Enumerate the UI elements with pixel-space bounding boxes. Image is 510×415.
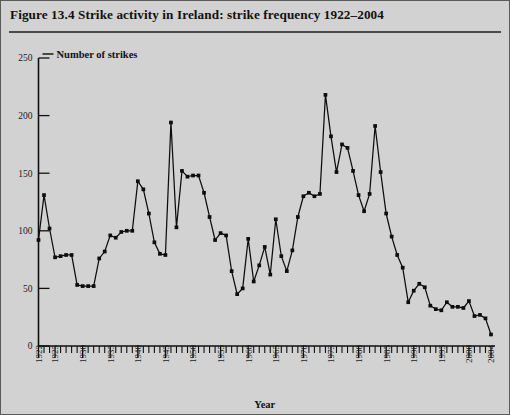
data-point-marker [59,254,63,258]
chart-plot-area: 050100150200250 192219251930193519401945… [1,35,510,415]
x-axis-tick-label: 1925 [50,345,60,364]
data-point-marker [489,333,493,337]
data-point-marker [108,234,112,238]
series-line-number-of-strikes [39,95,492,335]
data-point-marker [451,305,455,309]
y-axis-tick-label: 50 [23,284,33,294]
data-point-marker [473,314,477,318]
data-point-marker [346,146,350,150]
data-point-marker [75,283,79,287]
figure-title-bar: Figure 13.4 Strike activity in Ireland: … [1,1,509,31]
data-point-marker [164,253,168,257]
data-point-marker [136,179,140,183]
y-axis-tick-label: 0 [28,341,33,351]
data-point-marker [191,174,195,178]
data-point-marker [390,235,394,239]
data-point-marker [373,124,377,128]
data-point-marker [484,317,488,321]
data-point-marker [64,253,68,257]
data-point-marker [478,313,482,317]
data-point-marker [379,170,383,174]
y-axis-tick-label: 200 [18,111,33,121]
x-axis-tick-label: 1945 [161,345,171,364]
data-point-marker [368,192,372,196]
data-point-marker [351,169,355,173]
data-point-marker [395,253,399,257]
data-point-marker [456,305,460,309]
figure-caption: Figure 13.4 Strike activity in Ireland: … [10,7,384,23]
x-axis-tick-label: 1970 [299,345,309,364]
data-point-marker [268,273,272,277]
data-point-marker [439,308,443,312]
data-point-marker [462,306,466,310]
data-point-marker [202,191,206,195]
x-axis-tick-label: 2000 [464,345,474,364]
x-axis-tick-label: 1950 [188,345,198,364]
data-point-marker [103,250,107,254]
data-point-marker [434,307,438,311]
data-point-marker [401,266,405,270]
data-point-marker [302,194,306,198]
data-point-marker [324,93,328,97]
data-point-marker [230,269,234,273]
x-axis-tick-label: 1935 [106,345,116,364]
data-point-marker [290,249,294,253]
data-point-marker [224,234,228,238]
data-point-marker [246,237,250,241]
x-axis-tick-label: 1960 [244,345,254,364]
y-axis-tick-label: 250 [18,53,33,63]
y-axis-tick-label: 100 [18,226,33,236]
data-point-marker [384,212,388,216]
data-point-marker [423,285,427,289]
data-point-marker [158,252,162,256]
y-axis-tick-label: 150 [18,169,33,179]
data-point-marker [428,304,432,308]
x-axis: 1922192519301935194019451950195519601965… [34,345,497,364]
data-point-marker [406,300,410,304]
data-point-marker [335,170,339,174]
x-axis-tick-label: 1930 [78,345,88,364]
data-point-marker [412,289,416,293]
data-point-marker [197,174,201,178]
x-axis-tick-label: 1940 [133,345,143,364]
data-point-marker [153,240,157,244]
series-legend-label: Number of strikes [57,49,138,60]
x-axis-tick-label: 1922 [34,345,44,363]
data-point-marker [263,245,267,249]
data-point-marker [70,253,74,257]
x-axis-tick-label: 1965 [271,345,281,364]
data-point-marker [313,194,317,198]
data-point-marker [285,269,289,273]
x-axis-tick-label: 1980 [354,345,364,364]
data-point-marker [362,209,366,213]
data-point-marker [318,192,322,196]
title-divider [9,31,501,33]
data-point-marker [119,230,123,234]
x-axis-tick-label: 2004 [486,345,496,364]
data-point-marker [235,292,239,296]
x-axis-tick-label: 1995 [437,345,447,364]
data-point-marker [42,193,46,197]
x-axis-tick-label: 1955 [216,345,226,364]
data-point-marker [125,229,129,233]
x-axis-title: Year [254,399,275,410]
x-axis-tick-label: 1975 [326,345,336,364]
data-point-marker [329,134,333,138]
data-point-marker [296,215,300,219]
data-point-marker [219,231,223,235]
figure-container: Figure 13.4 Strike activity in Ireland: … [0,0,510,415]
x-axis-tick-label: 1990 [409,345,419,364]
data-point-marker [213,238,217,242]
data-point-marker [53,255,57,259]
x-axis-tick-label: 1985 [382,345,392,364]
data-point-marker [417,282,421,286]
data-point-marker [274,217,278,221]
data-point-marker [252,280,256,284]
data-point-marker [48,227,52,231]
data-point-marker [186,175,190,179]
data-series-number-of-strikes [37,93,493,336]
data-point-marker [130,229,134,233]
data-point-marker [208,215,212,219]
data-point-marker [180,169,184,173]
data-point-marker [114,236,118,240]
